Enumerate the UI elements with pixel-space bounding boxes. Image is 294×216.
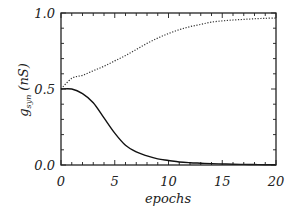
x-tick-labels: 05101520 (57, 174, 284, 189)
solid-series-line (61, 89, 276, 165)
x-tick-label: 0 (57, 174, 65, 189)
y-tick-label: 0.5 (34, 82, 55, 97)
y-axis-label: gsyn(nS) (16, 63, 33, 117)
x-tick-label: 15 (214, 174, 231, 189)
x-axis-label: epochs (145, 191, 191, 206)
chart: 05101520 0.00.51.0 epochs gsyn(nS) (0, 0, 294, 216)
x-tick-label: 5 (111, 174, 119, 189)
y-tick-label: 0.0 (34, 158, 55, 173)
plot-frame (61, 13, 276, 165)
series-lines (61, 18, 276, 165)
y-axis-label-subscript: syn (24, 95, 33, 109)
y-axis-label-unit: (nS) (16, 63, 31, 90)
x-tick-label: 20 (267, 174, 285, 189)
y-tick-labels: 0.00.51.0 (34, 6, 55, 173)
y-tick-label: 1.0 (34, 6, 55, 21)
dotted-series-line (61, 18, 276, 89)
y-axis-label-main: g (16, 108, 31, 116)
minor-ticks (61, 13, 276, 165)
x-tick-label: 10 (160, 174, 177, 189)
